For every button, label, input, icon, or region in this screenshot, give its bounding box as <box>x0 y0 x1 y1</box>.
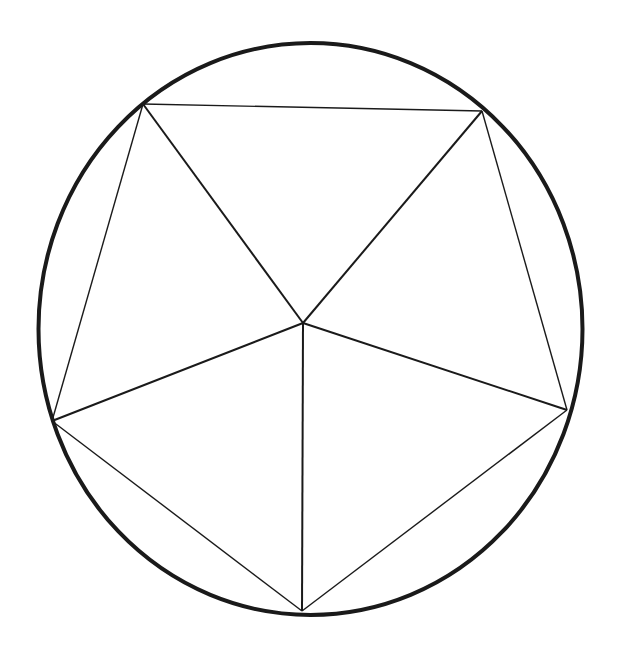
spoke-to-top-left <box>143 104 303 323</box>
pentagon-edge-top-left-to-top-right <box>143 104 482 111</box>
center-spokes <box>52 104 567 611</box>
spoke-to-top-right <box>303 111 482 323</box>
pentagon-edge-right-to-bottom <box>302 410 567 611</box>
pentagon-edge-top-right-to-right <box>482 111 567 410</box>
circumscribed-circle <box>39 43 583 615</box>
pentagon-in-circle-diagram <box>0 0 622 655</box>
spoke-to-left <box>52 323 303 421</box>
pentagon-edge-bottom-to-left <box>52 421 302 611</box>
spoke-to-right <box>303 323 567 410</box>
pentagon-edges <box>52 104 567 611</box>
spoke-to-bottom <box>302 323 303 611</box>
